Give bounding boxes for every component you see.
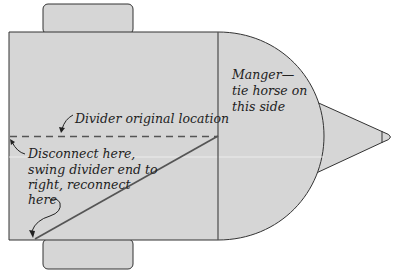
bottom-wheel bbox=[43, 239, 133, 269]
top-wheel bbox=[43, 4, 133, 34]
disconnect-label-line4: here bbox=[28, 192, 57, 207]
manger-label-line3: this side bbox=[232, 99, 285, 114]
disconnect-label-line3: right, reconnect bbox=[28, 177, 131, 192]
manger-label-line1: Manger— bbox=[231, 67, 295, 82]
disconnect-label-line1: Disconnect here, bbox=[27, 146, 135, 161]
disconnect-label-line2: swing divider end to bbox=[28, 162, 158, 177]
divider-original-label: Divider original location bbox=[74, 111, 229, 126]
manger-label-line2: tie horse on bbox=[232, 83, 307, 98]
horse-trailer-diagram: Manger— tie horse on this side Divider o… bbox=[0, 0, 403, 277]
